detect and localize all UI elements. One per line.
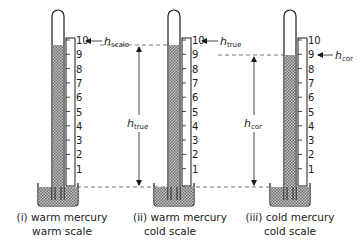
scale-label-4: 4 <box>308 121 314 132</box>
scale-label-4: 4 <box>192 121 198 132</box>
h-scale-pointer-label: hscale <box>104 35 129 49</box>
scale-label-1: 1 <box>76 164 82 175</box>
scale-label-6: 6 <box>76 92 82 103</box>
caption-iii-line2: cold scale <box>264 225 316 237</box>
scale-label-9: 9 <box>192 49 198 60</box>
h-scale-pointer: hscale <box>86 35 129 49</box>
h-cor-pointer: hcor <box>318 49 353 63</box>
scale-label-2: 2 <box>308 149 314 160</box>
scale-label-9: 9 <box>308 49 314 60</box>
caption-ii-line2: cold scale <box>144 225 196 237</box>
scale-label-8: 8 <box>76 64 82 75</box>
thermometer-ii: 12345678910 <box>154 10 205 206</box>
scale-bar <box>182 38 191 186</box>
scale-label-7: 7 <box>308 78 314 89</box>
scale-label-4: 4 <box>76 121 82 132</box>
scale-label-9: 9 <box>76 49 82 60</box>
scale-label-6: 6 <box>192 92 198 103</box>
scale-label-5: 5 <box>308 107 314 118</box>
caption-ii-line1: (ii) warm mercury <box>133 211 227 223</box>
scale-bar <box>66 38 75 186</box>
h-cor-pointer-label: hcor <box>335 49 353 63</box>
mercury-column <box>285 55 295 200</box>
scale-label-10: 10 <box>76 35 89 46</box>
caption-i-line1: (i) warm mercury <box>17 211 108 223</box>
scale-label-8: 8 <box>192 64 198 75</box>
scale-label-6: 6 <box>308 92 314 103</box>
scale-bar <box>298 38 307 186</box>
scale-label-3: 3 <box>308 135 314 146</box>
thermometer-comparison-diagram: 123456789101234567891012345678910 htrue … <box>0 0 358 249</box>
scale-label-1: 1 <box>192 164 198 175</box>
scale-label-7: 7 <box>192 78 198 89</box>
scale-label-7: 7 <box>76 78 82 89</box>
scale-label-10: 10 <box>192 35 205 46</box>
scale-label-3: 3 <box>192 135 198 146</box>
scale-label-1: 1 <box>308 164 314 175</box>
h-true-dimension-label: htrue <box>127 117 148 131</box>
h-true-pointer: htrue <box>202 35 241 49</box>
caption-iii-line1: (iii) cold mercury <box>245 211 334 223</box>
thermometer-i: 12345678910 <box>38 10 89 206</box>
h-cor-dimension-label: hcor <box>244 117 262 131</box>
mercury-column <box>169 45 179 200</box>
scale-label-5: 5 <box>76 107 82 118</box>
scale-label-10: 10 <box>308 35 321 46</box>
scale-label-2: 2 <box>76 149 82 160</box>
mercury-column <box>53 45 63 200</box>
thermometer-iii: 12345678910 <box>270 10 321 206</box>
scale-label-5: 5 <box>192 107 198 118</box>
h-true-pointer-label: htrue <box>220 35 241 49</box>
scale-label-3: 3 <box>76 135 82 146</box>
scale-label-2: 2 <box>192 149 198 160</box>
scale-label-8: 8 <box>308 64 314 75</box>
caption-i-line2: warm scale <box>32 225 92 237</box>
